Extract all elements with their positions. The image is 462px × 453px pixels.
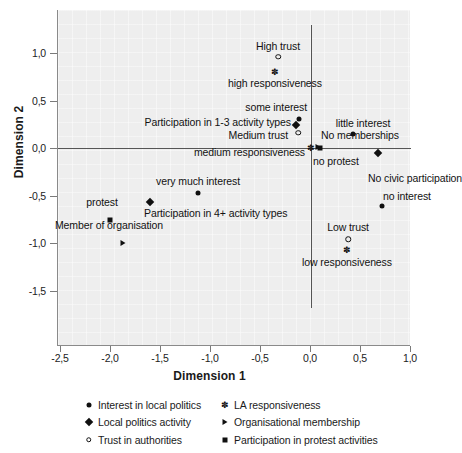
- legend-label: LA responsiveness: [234, 399, 320, 411]
- point-label: Participation in 1-3 activity types: [145, 117, 291, 128]
- legend-item[interactable]: Organisational membership: [220, 416, 414, 428]
- y-tick: [50, 196, 57, 197]
- y-axis-title: Dimension 2: [12, 67, 26, 217]
- legend-item[interactable]: LA responsiveness: [220, 399, 414, 411]
- legend-label: Trust in authorities: [98, 434, 182, 446]
- x-tick-label: 0,0: [303, 352, 317, 364]
- point-label: very much interest: [156, 176, 240, 187]
- y-tick: [50, 243, 57, 244]
- star-marker-icon: [271, 68, 279, 76]
- point-label: protest: [86, 197, 117, 208]
- point-label: no interest: [383, 191, 431, 202]
- legend-label: Interest in local politics: [98, 399, 201, 411]
- star-marker-icon: [343, 246, 351, 254]
- filled-circle-marker-icon: [380, 203, 385, 208]
- y-tick: [50, 53, 57, 54]
- diamond-marker-icon: [292, 121, 300, 129]
- point-label: high responsiveness: [228, 78, 322, 89]
- y-tick-label: -1,5: [29, 285, 46, 297]
- point-label: Medium trust: [229, 130, 288, 141]
- legend-label: Organisational membership: [234, 416, 360, 428]
- triangle-marker-icon: [121, 240, 126, 246]
- star-marker-icon: [307, 144, 315, 152]
- open-circle-marker-icon: [345, 236, 351, 242]
- diamond-marker-icon: [146, 198, 154, 206]
- filled-circle-marker-icon: [196, 190, 201, 195]
- legend: Interest in local politicsLA responsiven…: [84, 396, 414, 449]
- point-label: Participation in 4+ activity types: [144, 208, 287, 219]
- triangle-marker-icon: [220, 418, 229, 427]
- x-tick-label: -1,5: [151, 352, 168, 364]
- point-label: medium responsiveness: [194, 147, 305, 158]
- y-tick-label: 0,0: [32, 142, 46, 154]
- x-tick-label: 1,0: [403, 352, 417, 364]
- legend-label: Participation in protest activities: [234, 434, 378, 446]
- diamond-marker-icon: [374, 149, 382, 157]
- point-label: Member of organisation: [55, 220, 163, 231]
- square-marker-icon: [318, 146, 323, 151]
- y-tick: [50, 291, 57, 292]
- legend-item[interactable]: Local politics activity: [84, 416, 220, 428]
- point-label: No civic participation: [368, 173, 462, 184]
- star-marker-icon: [220, 400, 229, 409]
- point-label: High trust: [256, 41, 300, 52]
- y-tick-label: -0,5: [29, 190, 46, 202]
- y-tick-label: 0,5: [32, 95, 46, 107]
- filled-circle-marker-icon: [297, 116, 302, 121]
- point-label: low responsiveness: [302, 257, 392, 268]
- point-label: Low trust: [327, 222, 369, 233]
- filled-circle-marker-icon: [84, 400, 93, 409]
- point-label: some interest: [245, 102, 307, 113]
- x-tick-label: -2,5: [51, 352, 68, 364]
- x-axis-title: Dimension 1: [0, 369, 419, 383]
- point-label: No memberships: [321, 130, 399, 141]
- y-tick-label: 1,0: [32, 47, 46, 59]
- legend-item[interactable]: Participation in protest activities: [220, 434, 414, 446]
- legend-item[interactable]: Trust in authorities: [84, 434, 220, 446]
- legend-item[interactable]: Interest in local politics: [84, 399, 220, 411]
- x-tick-label: -0,5: [251, 352, 268, 364]
- open-circle-marker-icon: [84, 435, 93, 444]
- y-tick-label: -1,0: [29, 237, 46, 249]
- point-label: no protest: [313, 156, 359, 167]
- y-tick: [50, 148, 57, 149]
- open-circle-marker-icon: [295, 130, 301, 136]
- x-tick-label: -1,0: [201, 352, 218, 364]
- open-circle-marker-icon: [275, 54, 281, 60]
- plot-area: High trusthigh responsivenesssome intere…: [57, 10, 410, 346]
- legend-label: Local politics activity: [98, 416, 191, 428]
- x-tick-label: 0,5: [353, 352, 367, 364]
- square-marker-icon: [220, 435, 229, 444]
- y-tick: [50, 101, 57, 102]
- x-tick-label: -2,0: [101, 352, 118, 364]
- diamond-marker-icon: [84, 418, 93, 427]
- point-label: little interest: [336, 118, 391, 129]
